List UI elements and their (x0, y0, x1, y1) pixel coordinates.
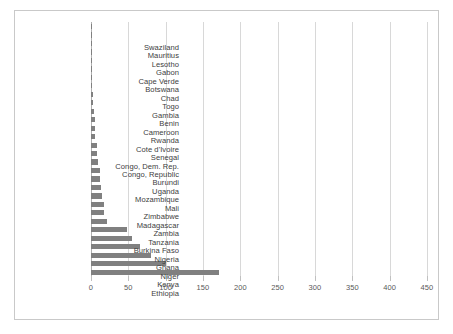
category-label-slot: Chad (16, 95, 179, 103)
gridline-450 (427, 22, 428, 276)
gridline-200 (240, 22, 241, 276)
chart-figure: 050100150200250300350400450 SwazilandMau… (0, 0, 453, 334)
tick-mark-150 (203, 276, 204, 281)
gridline-350 (352, 22, 353, 276)
category-label-slot: Mozambique (16, 196, 179, 204)
tick-label-300: 300 (295, 283, 335, 292)
tick-mark-350 (352, 276, 353, 281)
tick-mark-250 (278, 276, 279, 281)
category-label-slot: Lesotho (16, 61, 179, 69)
gridline-400 (390, 22, 391, 276)
category-label-slot: Botswana (16, 86, 179, 94)
gridline-300 (315, 22, 316, 276)
tick-label-400: 400 (370, 283, 410, 292)
category-label: Mozambique (19, 196, 179, 204)
tick-mark-450 (427, 276, 428, 281)
plot-area: 050100150200250300350400450 SwazilandMau… (91, 22, 427, 276)
tick-label-250: 250 (258, 283, 298, 292)
category-label: Gambia (19, 112, 179, 120)
tick-mark-200 (240, 276, 241, 281)
category-label: Lesotho (19, 61, 179, 69)
gridline-150 (203, 22, 204, 276)
category-label-slot: Gambia (16, 112, 179, 120)
plot-wrapper: 050100150200250300350400450 SwazilandMau… (0, 0, 453, 334)
category-label-slot: Nigeria (16, 256, 179, 264)
category-label: Botswana (19, 86, 179, 94)
category-labels: SwazilandMauritiusLesothoGabonCape Verde… (16, 44, 179, 298)
tick-mark-300 (315, 276, 316, 281)
gridline-250 (278, 22, 279, 276)
tick-label-350: 350 (332, 283, 372, 292)
category-label-slot: Ethiopia (16, 290, 179, 298)
category-label: Nigeria (19, 256, 179, 264)
tick-label-450: 450 (407, 283, 447, 292)
category-label: Ghana (19, 264, 179, 272)
tick-label-200: 200 (220, 283, 260, 292)
category-label-slot: Niger (16, 273, 179, 281)
category-label: Ethiopia (19, 290, 179, 298)
tick-mark-400 (390, 276, 391, 281)
bar (91, 32, 92, 37)
bar (91, 24, 92, 29)
category-label: Niger (19, 273, 179, 281)
category-label: Chad (19, 95, 179, 103)
tick-label-150: 150 (183, 283, 223, 292)
category-label-slot: Ghana (16, 264, 179, 272)
